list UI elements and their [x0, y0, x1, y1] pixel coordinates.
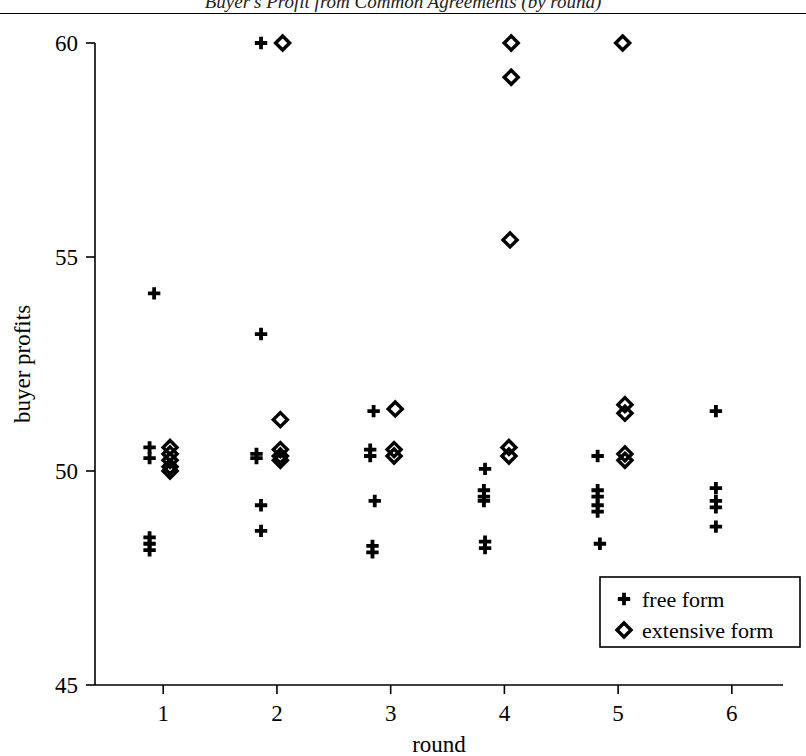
y-axis-label: buyer profits: [10, 305, 35, 423]
data-point-plus: [148, 287, 160, 299]
data-point-diamond: [388, 402, 402, 416]
legend-label-extensive-form: extensive form: [642, 618, 773, 643]
data-points-layer: [143, 36, 722, 559]
data-point-diamond: [616, 36, 630, 50]
scatter-chart: Buyer's Profit from Common Agreements (b…: [0, 0, 806, 756]
plot-area: 45505560123456roundbuyer profits free fo…: [0, 0, 806, 756]
data-point-plus: [255, 37, 267, 49]
data-point-diamond: [504, 70, 518, 84]
data-point-plus: [143, 544, 155, 556]
data-point-plus: [369, 495, 381, 507]
x-tick-label-1: 1: [157, 701, 169, 726]
data-point-plus: [364, 450, 376, 462]
series-extensive-form: [163, 36, 632, 478]
data-point-plus: [591, 505, 603, 517]
data-point-plus: [255, 328, 267, 340]
data-point-plus: [479, 542, 491, 554]
data-point-plus: [479, 463, 491, 475]
y-tick-label-55: 55: [55, 245, 78, 270]
x-tick-label-3: 3: [385, 701, 397, 726]
x-tick-label-2: 2: [271, 701, 283, 726]
data-point-plus: [255, 525, 267, 537]
x-tick-label-5: 5: [612, 701, 624, 726]
data-point-plus: [591, 450, 603, 462]
data-point-diamond: [273, 413, 287, 427]
data-point-plus: [255, 499, 267, 511]
y-tick-label-45: 45: [55, 673, 78, 698]
data-point-plus: [143, 452, 155, 464]
x-tick-label-6: 6: [726, 701, 738, 726]
chart-legend: free formextensive form: [600, 577, 800, 647]
x-axis-label: round: [412, 732, 466, 756]
data-point-plus: [143, 441, 155, 453]
data-point-plus: [710, 501, 722, 513]
data-point-diamond: [504, 36, 518, 50]
x-tick-label-4: 4: [499, 701, 511, 726]
data-point-plus: [710, 520, 722, 532]
data-point-plus: [710, 405, 722, 417]
data-point-diamond: [276, 36, 290, 50]
data-point-diamond: [503, 233, 517, 247]
data-point-plus: [366, 546, 378, 558]
data-point-plus: [367, 405, 379, 417]
y-tick-label-60: 60: [55, 31, 78, 56]
series-free-form: [143, 37, 722, 559]
data-point-plus: [594, 538, 606, 550]
y-tick-label-50: 50: [55, 459, 78, 484]
data-point-plus: [710, 482, 722, 494]
legend-label-free-form: free form: [642, 587, 724, 612]
